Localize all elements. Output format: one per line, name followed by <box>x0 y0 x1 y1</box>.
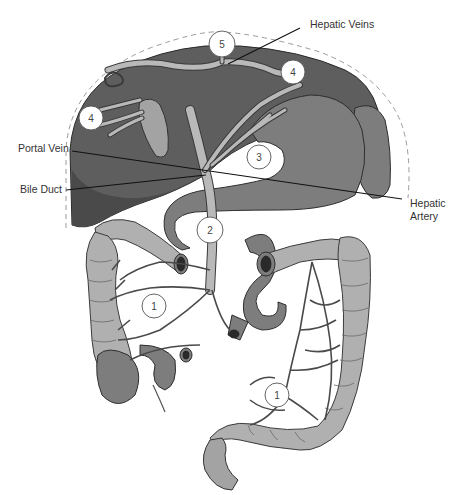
svg-text:4: 4 <box>290 67 296 78</box>
portal-system-illustration: 5 4 4 3 2 1 1 Hepatic Veins Portal Vein … <box>0 0 463 495</box>
descending-colon <box>210 237 370 450</box>
svg-text:5: 5 <box>219 39 225 50</box>
sigmoid-colon <box>203 438 238 490</box>
svg-text:1: 1 <box>274 390 280 401</box>
callout-5: 5 <box>209 31 235 57</box>
mesenteric-vessels <box>110 260 340 425</box>
callout-1-bottom: 1 <box>265 383 289 407</box>
callout-4-upper: 4 <box>281 60 305 84</box>
cecum <box>97 345 192 412</box>
callout-1-left: 1 <box>142 294 166 318</box>
callout-3: 3 <box>247 145 271 169</box>
svg-text:2: 2 <box>207 225 213 236</box>
svg-text:3: 3 <box>256 152 262 163</box>
callout-2: 2 <box>197 217 223 243</box>
svg-text:1: 1 <box>151 301 157 312</box>
label-bile-duct: Bile Duct <box>20 183 62 195</box>
transverse-colon <box>95 220 355 276</box>
label-portal-vein: Portal Vein <box>18 142 69 154</box>
svg-text:4: 4 <box>88 113 94 124</box>
label-hepatic-artery-line1: Hepatic <box>410 197 446 209</box>
label-hepatic-veins: Hepatic Veins <box>310 18 374 30</box>
callout-4-left: 4 <box>79 106 103 130</box>
label-hepatic-artery-line2: Artery <box>410 210 439 222</box>
